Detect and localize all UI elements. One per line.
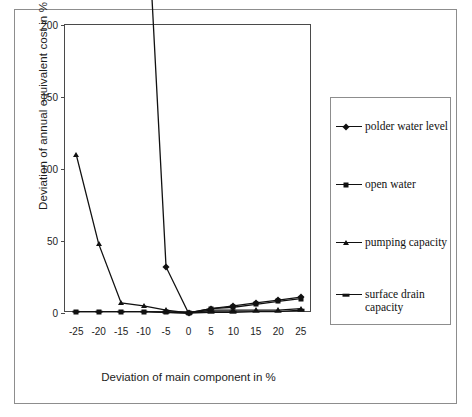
x-tick-label: -20 — [91, 326, 105, 337]
y-tick-mark — [61, 241, 65, 242]
data-point-marker — [118, 300, 124, 305]
legend: polder water levelopen waterpumping capa… — [330, 97, 451, 325]
x-tick-label: 25 — [295, 326, 306, 337]
series-line — [76, 155, 301, 313]
x-tick-label: 0 — [186, 326, 192, 337]
data-point-marker — [297, 309, 304, 312]
y-tick-mark — [61, 169, 65, 170]
x-tick-label: 15 — [250, 326, 261, 337]
x-tick-label: -15 — [114, 326, 128, 337]
legend-item-dash[interactable]: surface drain capacity — [336, 288, 452, 314]
legend-item-square[interactable]: open water — [336, 178, 452, 191]
data-point-marker — [276, 299, 281, 304]
y-tick-label: 200 — [28, 20, 58, 31]
x-tick-label: -5 — [162, 326, 171, 337]
legend-marker-icon — [336, 237, 362, 249]
x-tick-label: 20 — [273, 326, 284, 337]
series-lines — [65, 25, 312, 313]
y-tick-label: 100 — [28, 164, 58, 175]
data-point-marker — [185, 312, 192, 315]
x-tick-label: 10 — [228, 326, 239, 337]
y-tick-mark — [61, 97, 65, 98]
y-tick-label: 50 — [28, 236, 58, 247]
legend-marker-icon — [336, 179, 362, 191]
legend-item-label: pumping capacity — [362, 236, 447, 249]
data-point-marker — [73, 152, 79, 157]
data-point-marker — [163, 311, 170, 314]
data-point-marker — [95, 310, 102, 313]
y-tick-mark — [61, 313, 65, 314]
legend-marker-icon — [336, 289, 362, 301]
x-axis-title: Deviation of main component in % — [65, 371, 312, 383]
data-point-marker — [275, 310, 282, 313]
y-tick-label: 0 — [28, 308, 58, 319]
data-point-marker — [207, 311, 214, 314]
plot-area: 050100150200 -25-20-15-10-50510152025 De… — [64, 24, 311, 312]
data-point-marker — [298, 296, 303, 301]
y-axis-title: Deviation of annual equivalent cost in % — [37, 0, 49, 256]
legend-item-label: surface drain capacity — [362, 288, 452, 314]
legend-item-triangle[interactable]: pumping capacity — [336, 236, 452, 249]
data-point-marker — [96, 241, 102, 246]
data-point-marker — [73, 310, 80, 313]
y-tick-label: 150 — [28, 92, 58, 103]
legend-item-diamond[interactable]: polder water level — [336, 120, 452, 133]
data-point-marker — [140, 310, 147, 313]
data-point-marker — [253, 302, 258, 307]
legend-marker-icon — [336, 121, 362, 133]
data-point-marker — [230, 311, 237, 314]
data-point-marker — [118, 310, 125, 313]
x-tick-label: -10 — [136, 326, 150, 337]
legend-item-label: open water — [362, 178, 416, 191]
x-tick-label: 5 — [208, 326, 214, 337]
chart-figure: Deviation of annual equivalent cost in %… — [0, 0, 472, 417]
y-tick-mark — [61, 25, 65, 26]
data-point-marker — [252, 310, 259, 313]
legend-item-label: polder water level — [362, 120, 448, 133]
data-point-marker — [141, 303, 147, 308]
x-tick-label: -25 — [69, 326, 83, 337]
